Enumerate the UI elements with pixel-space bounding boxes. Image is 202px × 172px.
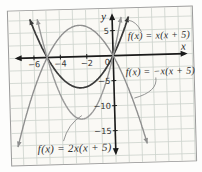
graph-figure: −6−4−25−5−10−150 f(x) = x(x + 5) f(x) = … <box>7 5 197 166</box>
equation-label-2x-times-x-plus-5: f(x) = 2x(x + 5) <box>38 142 112 155</box>
y-axis-label: y <box>101 11 106 22</box>
svg-text:−15: −15 <box>94 126 112 136</box>
scanned-textbook-page: −6−4−25−5−10−150 f(x) = x(x + 5) f(x) = … <box>0 0 202 172</box>
svg-text:−4: −4 <box>54 58 67 68</box>
svg-text:5: 5 <box>104 26 110 36</box>
svg-text:−10: −10 <box>93 101 111 111</box>
svg-text:−5: −5 <box>98 76 111 86</box>
svg-text:−6: −6 <box>28 59 41 69</box>
svg-text:−2: −2 <box>81 58 94 68</box>
svg-text:0: 0 <box>104 57 110 67</box>
x-axis-label: x <box>181 41 186 52</box>
equation-label-neg-x-times-x-plus-5: f(x) = −x(x + 5) <box>125 65 195 77</box>
